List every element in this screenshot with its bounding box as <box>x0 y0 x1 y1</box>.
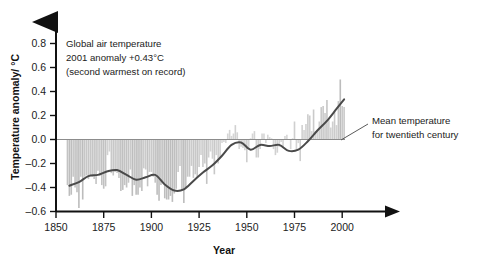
figure-container: –0.6–0.4–0.20.00.20.40.60.8 185018751900… <box>0 0 481 267</box>
x-tick-label: 1950 <box>235 221 259 233</box>
annotation-line-3: (second warmest on record) <box>66 66 185 77</box>
x-tick-label: 1925 <box>187 221 211 233</box>
y-axis-title: Temperature anomaly/ °C <box>9 54 21 180</box>
annotation-line-1: Global air temperature <box>66 38 161 49</box>
annotation-line-2: 2001 anomaly +0.43°C <box>66 52 164 63</box>
x-tick-label: 2000 <box>331 221 355 233</box>
x-tick-label: 1900 <box>140 221 164 233</box>
y-tick-label: –0.2 <box>26 157 47 169</box>
x-tick-label: 1850 <box>44 221 68 233</box>
y-tick-label: 0.8 <box>31 37 46 49</box>
y-tick-label: 0.4 <box>31 85 46 97</box>
x-axis-title: Year <box>213 244 235 256</box>
y-tick-label: 0.2 <box>31 109 46 121</box>
y-tick-label: –0.4 <box>26 181 47 193</box>
y-tick-label: 0.6 <box>31 61 46 73</box>
x-tick-label: 1975 <box>283 221 307 233</box>
y-tick-label: 0.0 <box>31 133 46 145</box>
callout-line-1: Mean temperature <box>372 115 450 126</box>
x-tick-label: 1875 <box>92 221 116 233</box>
callout-line-2: for twentieth century <box>372 129 459 140</box>
temperature-anomaly-chart: –0.6–0.4–0.20.00.20.40.60.8 185018751900… <box>0 0 481 267</box>
y-tick-label: –0.6 <box>26 205 47 217</box>
